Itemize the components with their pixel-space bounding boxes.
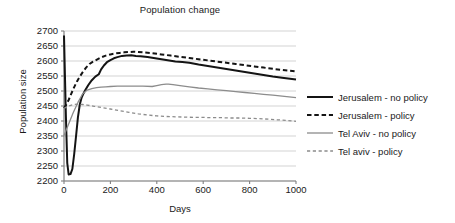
legend-item[interactable]: Jerusalem - no policy (306, 88, 455, 106)
legend-line-swatch (306, 145, 334, 157)
legend-line-swatch (306, 91, 334, 103)
legend-item[interactable]: Tel Aviv - no policy (306, 124, 455, 142)
series-line (64, 52, 296, 108)
series-line (64, 36, 296, 175)
legend-item[interactable]: Tel aviv - policy (306, 142, 455, 160)
series-line (64, 84, 296, 135)
series-line (64, 104, 296, 121)
legend-item-label: Jerusalem - no policy (334, 92, 428, 103)
legend-item-label: Jerusalem - policy (334, 110, 415, 121)
x-axis-label: Days (60, 203, 300, 214)
legend-item-label: Tel Aviv - no policy (334, 128, 416, 139)
legend-item-label: Tel aviv - policy (334, 146, 402, 157)
population-change-chart: Population change Population size 220022… (0, 0, 455, 223)
legend-line-swatch (306, 127, 334, 139)
legend-item[interactable]: Jerusalem - policy (306, 106, 455, 124)
legend-line-swatch (306, 109, 334, 121)
chart-legend: Jerusalem - no policyJerusalem - policyT… (306, 88, 455, 160)
